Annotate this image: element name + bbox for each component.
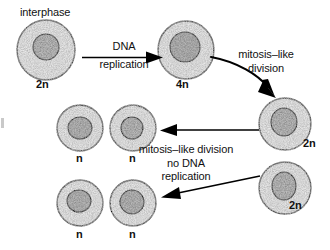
cell-nucleus [170, 32, 200, 62]
label-mitosis-like-division: mitosis–like division [228, 48, 304, 74]
label-ploidy-2n-upper: 2n [303, 137, 316, 150]
cell-interphase [17, 20, 75, 80]
label-no-replication-line1: mitosis–like division [124, 143, 248, 156]
label-division-no-replication: mitosis–like division no DNA replication [124, 143, 248, 183]
cell-haploid-3 [57, 180, 103, 226]
label-mitosis-like-line2: division [228, 62, 304, 75]
cell-haploid-1 [57, 105, 103, 151]
cell-nucleus [67, 190, 91, 212]
cell-nucleus [271, 108, 297, 136]
label-dna-replication-line2: replication [93, 58, 155, 71]
label-ploidy-n-4: n [129, 228, 136, 241]
label-dna-replication: DNA replication [93, 40, 155, 70]
cell-nucleus [68, 117, 92, 139]
label-ploidy-n-1: n [76, 152, 83, 165]
label-dna-replication-line1: DNA [93, 40, 155, 53]
label-no-replication-line3: replication [124, 170, 248, 183]
label-no-replication-line2: no DNA [124, 157, 248, 170]
label-ploidy-n-2: n [129, 152, 136, 165]
label-ploidy-4n: 4n [176, 78, 189, 91]
cell-nucleus [121, 117, 143, 139]
arrow-division-no-replication-upper [160, 124, 259, 136]
label-ploidy-2n-lower: 2n [289, 199, 302, 212]
label-interphase: interphase [20, 6, 70, 19]
label-mitosis-like-line1: mitosis–like [228, 48, 304, 61]
cell-nucleus [33, 34, 59, 60]
label-ploidy-n-3: n [76, 228, 83, 241]
page-edge-mark [1, 118, 4, 128]
cell-nucleus [272, 172, 296, 200]
label-ploidy-2n-interphase: 2n [36, 78, 49, 91]
figure-canvas: interphase 2n 4n DNA replication mitosis… [0, 0, 330, 250]
diagram-svg [0, 0, 330, 250]
cell-daughter-2n-lower [259, 162, 311, 214]
cell-nucleus [120, 190, 144, 214]
cell-haploid-4 [110, 180, 156, 226]
cell-replicated [158, 21, 214, 79]
